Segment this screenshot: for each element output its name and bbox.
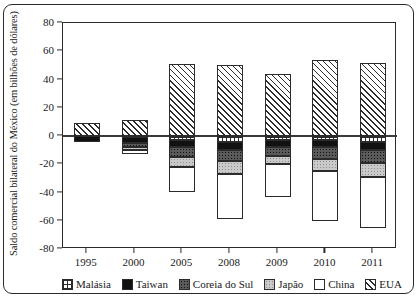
legend-item-China[interactable]: China (314, 278, 354, 290)
bar-group-2010 (312, 23, 338, 249)
legend-swatch-Coreia do Sul (179, 279, 190, 290)
bar-segment-Coreia do Sul-2009 (265, 147, 291, 155)
figure-container: Saldo comercial bilateral do México (em … (0, 0, 417, 305)
plot-area (62, 22, 396, 248)
bar-segment-Japão-2011 (360, 163, 386, 177)
y-tick-mark (57, 50, 62, 51)
bar-segment-Japão-2010 (312, 159, 338, 172)
y-tick-mark (57, 219, 62, 220)
y-tick-label-60: 60 (20, 44, 54, 56)
bar-segment-Taiwan-2009 (265, 140, 291, 147)
bar-group-2009 (265, 23, 291, 249)
bar-segment-China-2011 (360, 177, 386, 228)
bar-segment-EUA-2000 (122, 120, 148, 136)
bar-segment-EUA-2005 (169, 64, 195, 136)
bar-segment-China-2005 (169, 167, 195, 192)
bar-segment-China-2010 (312, 171, 338, 220)
bar-segment-EUA-2010 (312, 60, 338, 136)
bar-segment-Coreia do Sul-2008 (217, 150, 243, 161)
legend-swatch-Taiwan (122, 279, 133, 290)
bar-group-2000 (122, 23, 148, 249)
bar-segment-EUA-2009 (265, 74, 291, 136)
legend-label: China (328, 278, 354, 290)
legend-item-Japão[interactable]: Japão (264, 278, 303, 290)
bar-segment-EUA-2008 (217, 65, 243, 136)
bar-group-1995 (74, 23, 100, 249)
legend-swatch-Japão (264, 279, 275, 290)
bar-segment-China-2008 (217, 174, 243, 219)
y-tick-label-0: 0 (20, 129, 54, 141)
legend-label: Coreia do Sul (193, 278, 254, 290)
legend-label: Malásia (76, 278, 111, 290)
x-tick-mark (228, 248, 229, 253)
bar-segment-EUA-1995 (74, 123, 100, 136)
bar-segment-Taiwan-2005 (169, 140, 195, 147)
legend-item-EUA[interactable]: EUA (365, 278, 402, 290)
x-tick-mark (372, 248, 373, 253)
y-tick-label-20: 20 (20, 101, 54, 113)
y-tick-mark (57, 106, 62, 107)
bar-segment-Taiwan-2011 (360, 142, 386, 150)
bar-segment-Taiwan-1995 (74, 136, 100, 142)
x-tick-mark (85, 248, 86, 253)
bar-group-2005 (169, 23, 195, 249)
legend-swatch-Malásia (62, 279, 73, 290)
x-tick-mark (276, 248, 277, 253)
legend-label: Japão (278, 278, 303, 290)
legend-label: EUA (379, 278, 402, 290)
y-tick-mark (57, 78, 62, 79)
y-tick-label-80: 80 (20, 16, 54, 28)
bar-segment-Japão-2008 (217, 161, 243, 174)
x-tick-mark (324, 248, 325, 253)
y-tick-mark (57, 134, 62, 135)
legend-swatch-China (314, 279, 325, 290)
bar-segment-China-2009 (265, 164, 291, 196)
y-tick-label--20: -20 (20, 157, 54, 169)
bar-segment-Coreia do Sul-2010 (312, 147, 338, 158)
chart-legend: MalásiaTaiwanCoreia do SulJapãoChinaEUA (62, 276, 402, 292)
bar-segment-Coreia do Sul-2005 (169, 147, 195, 157)
x-tick-label-2011: 2011 (342, 256, 402, 268)
bar-segment-China-2000 (122, 150, 148, 154)
y-tick-mark (57, 163, 62, 164)
legend-label: Taiwan (136, 278, 168, 290)
x-tick-mark (181, 248, 182, 253)
y-tick-label-40: 40 (20, 73, 54, 85)
legend-item-Malásia[interactable]: Malásia (62, 278, 111, 290)
legend-swatch-EUA (365, 279, 376, 290)
bar-segment-Japão-2005 (169, 157, 195, 167)
y-tick-mark (57, 21, 62, 22)
bar-segment-Japão-2009 (265, 156, 291, 164)
bar-segment-EUA-2011 (360, 63, 386, 136)
y-tick-label--80: -80 (20, 242, 54, 254)
y-tick-mark (57, 247, 62, 248)
bar-segment-Taiwan-2010 (312, 140, 338, 147)
y-tick-mark (57, 191, 62, 192)
bar-group-2011 (360, 23, 386, 249)
bar-segment-Taiwan-2008 (217, 142, 243, 150)
x-tick-mark (133, 248, 134, 253)
bar-segment-Coreia do Sul-2011 (360, 150, 386, 163)
legend-item-Coreia do Sul[interactable]: Coreia do Sul (179, 278, 254, 290)
bar-group-2008 (217, 23, 243, 249)
y-tick-label--60: -60 (20, 214, 54, 226)
y-axis-title: Saldo comercial bilateral do México (em … (8, 9, 19, 259)
y-tick-label--40: -40 (20, 186, 54, 198)
legend-item-Taiwan[interactable]: Taiwan (122, 278, 168, 290)
